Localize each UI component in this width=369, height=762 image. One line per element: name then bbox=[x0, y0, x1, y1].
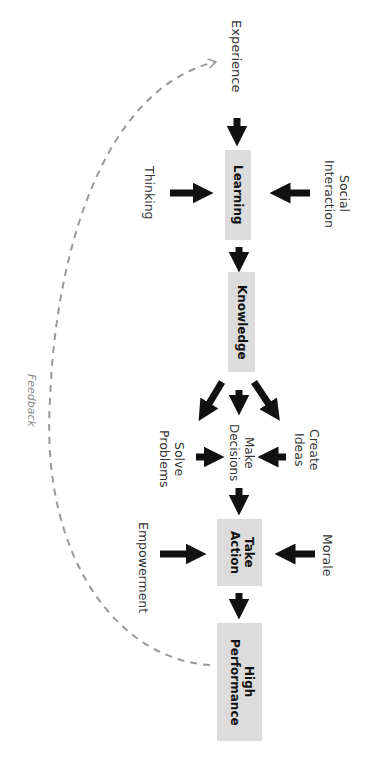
input-social-interaction: Social Interaction bbox=[318, 155, 352, 233]
arrow-knowledge-solve bbox=[204, 382, 222, 412]
node-high-performance-label: High Performance bbox=[224, 630, 256, 734]
input-solve-problems: Solve Problems bbox=[153, 428, 187, 490]
input-empowerment: Empowerment bbox=[136, 518, 151, 618]
input-create-ideas: Create Ideas bbox=[290, 425, 322, 475]
node-high-performance: High Performance bbox=[217, 623, 262, 741]
node-knowledge: Knowledge bbox=[228, 272, 255, 372]
input-thinking: Thinking bbox=[142, 163, 157, 223]
node-take-action: Take Action bbox=[217, 519, 262, 586]
node-experience: Experience bbox=[229, 0, 244, 112]
input-morale: Morale bbox=[320, 530, 335, 580]
node-make-decisions: Make Decisions bbox=[222, 420, 256, 486]
diagram-canvas: Experience Learning Knowledge Make Decis… bbox=[0, 0, 369, 762]
node-learning-label: Learning bbox=[231, 165, 245, 225]
feedback-label: Feedback bbox=[24, 368, 39, 433]
feedback-curve bbox=[49, 62, 215, 665]
node-knowledge-label: Knowledge bbox=[235, 285, 249, 360]
arrows-layer bbox=[0, 0, 369, 762]
node-take-action-label: Take Action bbox=[224, 528, 256, 578]
arrow-knowledge-create bbox=[254, 382, 274, 412]
node-learning: Learning bbox=[225, 150, 251, 240]
